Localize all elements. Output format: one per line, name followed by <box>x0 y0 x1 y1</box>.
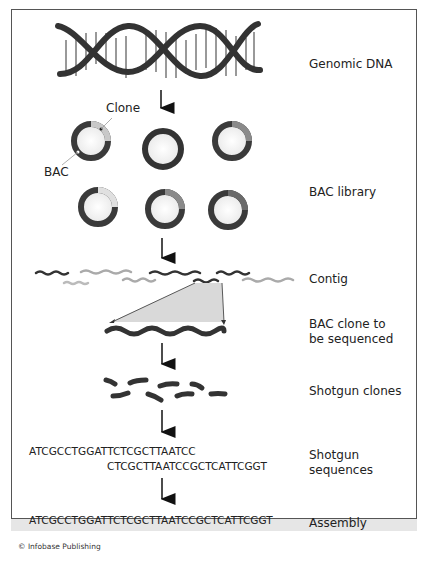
label-shotgun-sequences: Shotgun sequences <box>309 448 373 478</box>
clone-callout: Clone <box>106 101 140 115</box>
contig-fragments-icon <box>36 271 293 285</box>
dna-helix-icon <box>58 24 260 78</box>
shotgun-read-2: CTCGCTTAATCCGCTCATTCGGT <box>107 460 267 472</box>
label-bac-library: BAC library <box>309 185 376 200</box>
label-genomic-dna: Genomic DNA <box>309 57 393 72</box>
credit-text: © Infobase Publishing <box>18 542 101 551</box>
bac-plasmid-icon <box>215 124 249 158</box>
bac-plasmid-icon <box>211 193 245 227</box>
shotgun-fragments-icon <box>106 380 225 400</box>
expansion-shape <box>111 283 224 322</box>
assembled-sequence: ATCGCCTGGATTCTCGCTTAATCCGCTCATTCGGT <box>29 514 273 526</box>
shotgun-read-1: ATCGCCTGGATTCTCGCTTAATCC <box>29 445 196 457</box>
bac-plasmid-icon <box>145 131 181 167</box>
label-shotgun-sequences-line2: sequences <box>309 463 373 478</box>
label-bac-clone-line2: be sequenced <box>309 332 393 347</box>
bac-plasmid-icon <box>74 124 108 158</box>
label-shotgun-clones: Shotgun clones <box>309 384 401 399</box>
bac-callout: BAC <box>44 165 69 179</box>
label-shotgun-sequences-line1: Shotgun <box>309 448 373 463</box>
label-bac-clone: BAC clone to be sequenced <box>309 317 393 347</box>
bac-plasmid-icon <box>81 190 115 224</box>
label-assembly: Assembly <box>309 516 367 531</box>
workflow-diagram <box>0 0 426 572</box>
label-bac-clone-line1: BAC clone to <box>309 317 393 332</box>
bac-clone-icon <box>107 328 224 334</box>
label-contig: Contig <box>309 272 348 287</box>
bac-plasmid-icon <box>148 192 182 226</box>
